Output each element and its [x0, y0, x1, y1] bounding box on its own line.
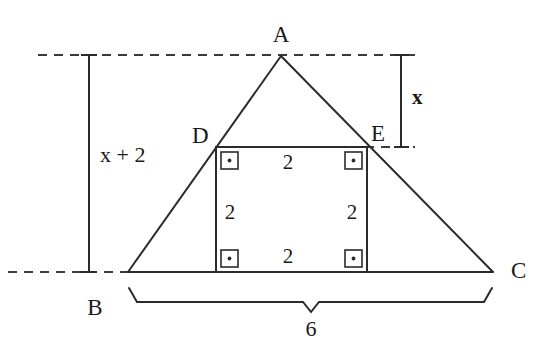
triangle-side-ac [281, 56, 493, 272]
vertex-label-e: E [371, 122, 385, 145]
measure-line-x-plus-2 [81, 55, 97, 272]
right-angle-mark-bottom-left [221, 250, 238, 267]
square-side-label-bottom: 2 [283, 246, 294, 267]
right-angle-mark-bottom-right [345, 250, 362, 267]
square-side-label-left: 2 [225, 202, 236, 223]
measure-label-base-6: 6 [306, 318, 317, 340]
diagram-canvas [0, 0, 542, 356]
vertex-label-c: C [511, 259, 526, 282]
geometry-figure: A B C D E 2 2 2 2 x + 2 x 6 [0, 0, 542, 356]
triangle-side-ab [128, 56, 281, 272]
right-angle-mark-top-right [345, 152, 362, 169]
vertex-label-a: A [273, 23, 290, 46]
measure-label-x-plus-2: x + 2 [100, 144, 145, 166]
right-angle-mark-top-left [221, 152, 238, 169]
base-brace [129, 288, 492, 312]
square-side-label-right: 2 [347, 202, 358, 223]
vertex-label-b: B [87, 296, 102, 319]
measure-label-x: x [412, 87, 423, 108]
vertex-label-d: D [192, 124, 209, 147]
measure-line-x [394, 55, 409, 147]
square-side-label-top: 2 [283, 152, 294, 173]
